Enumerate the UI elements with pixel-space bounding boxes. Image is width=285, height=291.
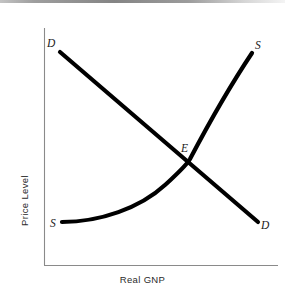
supply-curve-bottom-label: S [50, 217, 56, 229]
demand-curve-bottom-label: D [260, 219, 270, 231]
supply-curve-top-label: S [255, 39, 261, 51]
x-axis-label: Real GNP [0, 274, 285, 285]
figure-canvas: D D S S E Real GNP Price Level [0, 0, 285, 291]
y-axis-label: Price Level [19, 66, 30, 226]
equilibrium-point-label: E [180, 142, 188, 154]
chart-plot-area: D D S S E [0, 0, 285, 291]
demand-curve-top-label: D [46, 37, 56, 49]
aggregate-demand-curve [60, 52, 258, 222]
